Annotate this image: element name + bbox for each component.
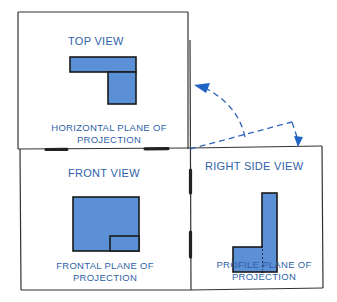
arrowhead-up-icon	[194, 83, 210, 93]
right-view-caption-2: PROJECTION	[203, 271, 325, 283]
right-view-title: RIGHT SIDE VIEW	[205, 160, 303, 172]
top-view-caption-1: HORIZONTAL PLANE OF	[44, 122, 174, 134]
front-view-title: FRONT VIEW	[68, 167, 140, 179]
right-view-caption-1: PROFILE PLANE OF	[203, 259, 325, 271]
front-view-shape	[73, 197, 139, 251]
top-view-shape	[70, 57, 136, 104]
arrowhead-down-icon	[294, 136, 303, 147]
top-view-caption-2: PROJECTION	[44, 134, 174, 146]
front-view-caption-1: FRONTAL PLANE OF	[40, 260, 170, 272]
top-view-title: TOP VIEW	[68, 35, 124, 47]
rotation-arrow-up-icon	[190, 88, 299, 149]
front-view-caption-2: PROJECTION	[40, 272, 170, 284]
projection-diagram	[0, 0, 337, 302]
